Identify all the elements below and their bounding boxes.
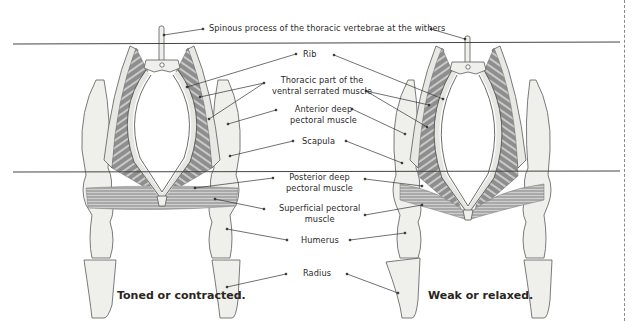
label-ventral-serrated-line1: Thoracic part of the <box>272 75 372 86</box>
withers-reference-line <box>13 42 620 44</box>
label-superficial-pectoral-line1: Superficial pectoral <box>279 203 360 214</box>
label-radius: Radius <box>303 268 331 279</box>
page-cut-dashed-line <box>624 0 625 321</box>
label-posterior-deep-pectoral-line2: pectoral muscle <box>286 183 353 194</box>
caption-toned-or-contracted: Toned or contracted. <box>117 289 246 302</box>
label-rib: Rib <box>303 49 316 60</box>
anatomy-diagram: Spinous process of the thoracic vertebra… <box>0 0 634 321</box>
label-scapula: Scapula <box>302 136 335 147</box>
label-ventral-serrated-line2: ventral serrated muscle <box>272 86 372 97</box>
label-posterior-deep-pectoral-line1: Posterior deep <box>286 172 353 183</box>
right-figure-relaxed <box>386 36 552 318</box>
label-anterior-deep-pectoral-line2: pectoral muscle <box>290 115 357 126</box>
label-ventral-serrated-muscle: Thoracic part of the ventral serrated mu… <box>272 75 372 97</box>
label-posterior-deep-pectoral: Posterior deep pectoral muscle <box>286 172 353 194</box>
label-superficial-pectoral-line2: muscle <box>279 214 360 225</box>
label-superficial-pectoral: Superficial pectoral muscle <box>279 203 360 225</box>
label-anterior-deep-pectoral-line1: Anterior deep <box>290 104 357 115</box>
label-anterior-deep-pectoral: Anterior deep pectoral muscle <box>290 104 357 126</box>
caption-weak-or-relaxed: Weak or relaxed. <box>428 289 533 302</box>
label-spinous-process: Spinous process of the thoracic vertebra… <box>209 23 445 34</box>
label-humerus: Humerus <box>301 235 339 246</box>
